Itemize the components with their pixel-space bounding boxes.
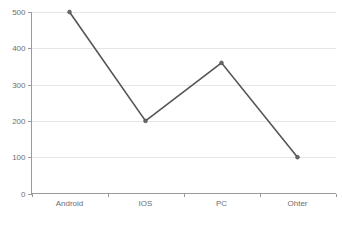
gridlines <box>32 13 336 158</box>
x-axis-tick-label: Android <box>56 199 84 208</box>
series-polyline <box>70 12 298 157</box>
line-chart: 0100200300400500 AndroidIOSPCOhter <box>0 0 342 230</box>
x-axis-tick-label: IOS <box>139 199 153 208</box>
y-axis-tick-label: 100 <box>12 153 26 162</box>
y-axis <box>28 12 32 195</box>
x-axis-tick-label: Ohter <box>287 199 307 208</box>
data-point-marker <box>68 10 72 14</box>
x-axis-tick-label: PC <box>216 199 227 208</box>
y-axis-tick-label: 400 <box>12 44 26 53</box>
y-axis-tick-label: 200 <box>12 117 26 126</box>
x-axis <box>32 194 337 198</box>
chart-canvas: 0100200300400500 AndroidIOSPCOhter <box>0 0 342 230</box>
data-point-marker <box>296 155 300 159</box>
data-point-marker <box>220 61 224 65</box>
x-axis-tick-labels: AndroidIOSPCOhter <box>56 199 308 208</box>
y-axis-tick-label: 300 <box>12 81 26 90</box>
y-axis-tick-label: 0 <box>21 190 26 199</box>
y-axis-tick-label: 500 <box>12 8 26 17</box>
data-point-markers <box>68 10 300 159</box>
data-series-line <box>70 12 298 157</box>
y-axis-tick-labels: 0100200300400500 <box>12 8 26 199</box>
data-point-marker <box>144 119 148 123</box>
